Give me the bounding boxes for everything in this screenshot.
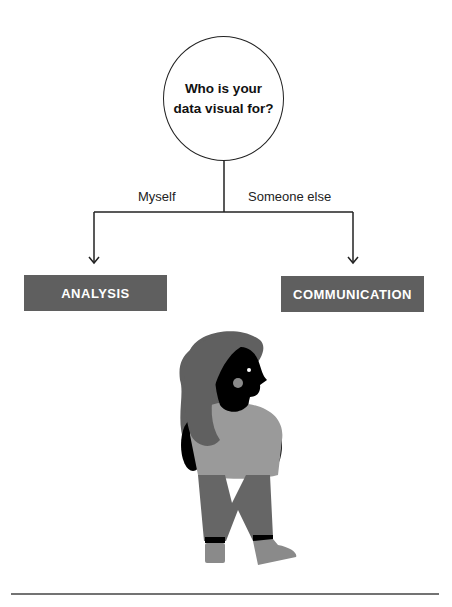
- analysis-box: ANALYSIS: [24, 275, 167, 311]
- communication-box: COMMUNICATION: [281, 276, 424, 312]
- branch-label-someone-else: Someone else: [248, 189, 331, 204]
- branch-label-myself: Myself: [138, 189, 176, 204]
- person-illustration: [160, 325, 310, 575]
